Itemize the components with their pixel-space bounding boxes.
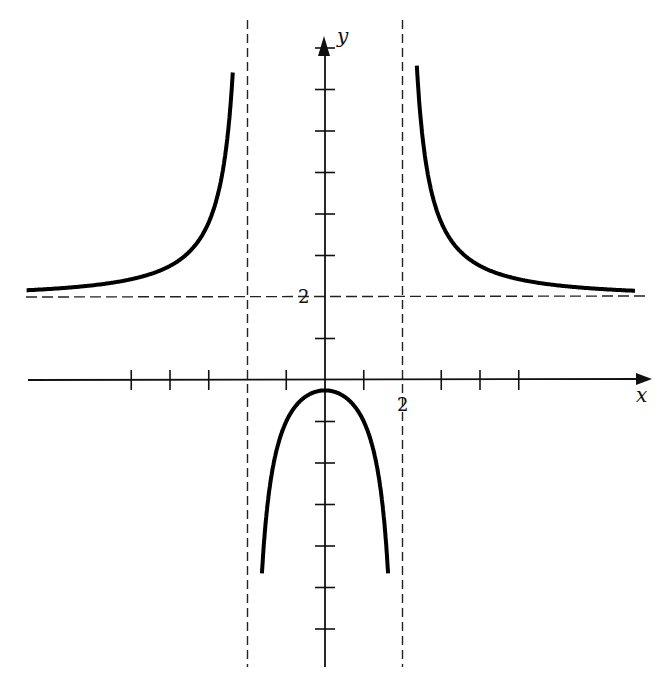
x-axis	[28, 379, 640, 380]
asymptote-lines	[26, 20, 645, 667]
curve-branches	[27, 66, 635, 574]
y-tick-label-2: 2	[298, 286, 309, 307]
curve-left-branch	[27, 73, 233, 291]
x-axis-label: x	[636, 383, 647, 407]
y-axis-arrow-icon	[318, 36, 330, 56]
x-tick-label-2: 2	[397, 394, 408, 415]
curve-right-branch	[417, 66, 635, 291]
y-axis-label: y	[336, 24, 349, 48]
function-graph: y x 2 2	[0, 0, 667, 687]
horizontal-asymptote	[26, 296, 645, 297]
axes	[28, 36, 652, 667]
